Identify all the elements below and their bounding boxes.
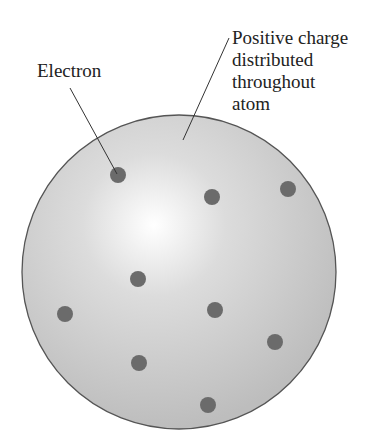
atom-sphere xyxy=(22,115,336,429)
positive-charge-line-4: atom xyxy=(232,93,348,115)
positive-charge-label: Positive charge distributed throughout a… xyxy=(232,27,348,115)
electron-dot xyxy=(204,189,220,205)
electron-dot xyxy=(110,167,126,183)
electron-dot xyxy=(280,181,296,197)
electron-dot xyxy=(207,302,223,318)
positive-charge-line-3: throughout xyxy=(232,71,348,93)
electron-dot xyxy=(57,306,73,322)
positive-charge-line-2: distributed xyxy=(232,49,348,71)
electron-label: Electron xyxy=(37,60,101,82)
electron-dot xyxy=(200,397,216,413)
electron-dot xyxy=(131,355,147,371)
electron-dot xyxy=(130,271,146,287)
positive-charge-line-1: Positive charge xyxy=(232,27,348,49)
electron-dot xyxy=(267,334,283,350)
